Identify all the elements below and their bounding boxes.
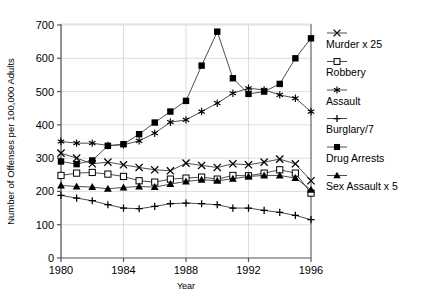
plus-marker-icon (73, 194, 80, 201)
data-point-marker (198, 108, 204, 115)
grid-lines (61, 25, 311, 258)
data-point-marker (167, 200, 174, 207)
data-point-marker (120, 141, 126, 147)
filled-square-icon (105, 143, 111, 149)
asterisk-marker-icon (198, 108, 204, 115)
filled-square-icon (89, 157, 95, 163)
plus-marker-icon (245, 204, 252, 211)
data-point-marker (292, 55, 298, 61)
legend-item-sex-assault-x-5[interactable]: Sex Assault x 5 (326, 172, 398, 192)
legend-item-assault[interactable]: Assault (326, 86, 361, 106)
data-point-marker (152, 129, 158, 136)
data-point-marker (198, 62, 204, 68)
data-point-marker (276, 156, 283, 163)
legend-item-drug-arrests[interactable]: Drug Arrests (326, 144, 384, 164)
filled-square-icon (152, 119, 158, 125)
filled-triangle-icon (333, 172, 340, 179)
data-point-marker (292, 160, 299, 167)
filled-square-icon (183, 98, 189, 104)
asterisk-marker-icon (214, 100, 220, 107)
open-square-icon (89, 169, 95, 175)
data-point-marker (334, 59, 340, 65)
data-point-marker (333, 172, 340, 179)
data-point-marker (73, 161, 79, 167)
data-point-marker (120, 204, 127, 211)
asterisk-marker-icon (308, 108, 314, 115)
filled-square-icon (261, 88, 267, 94)
plus-marker-icon (261, 207, 268, 214)
data-point-marker (277, 81, 283, 87)
x-tick-label: 1980 (49, 264, 73, 276)
data-point-marker (334, 115, 341, 122)
open-square-icon (58, 172, 64, 178)
data-point-marker (73, 194, 80, 201)
plus-marker-icon (229, 204, 236, 211)
data-point-marker (308, 35, 314, 41)
asterisk-marker-icon (230, 90, 236, 97)
data-point-marker (89, 169, 95, 175)
data-point-marker (167, 108, 173, 114)
plus-marker-icon (214, 201, 221, 208)
open-square-icon (120, 173, 126, 179)
plus-marker-icon (57, 192, 64, 199)
plus-marker-icon (182, 199, 189, 206)
plus-marker-icon (292, 212, 299, 219)
y-tick-label: 500 (36, 86, 54, 98)
data-point-marker (104, 201, 111, 208)
data-point-marker (58, 172, 64, 178)
data-point-marker (136, 205, 143, 212)
x-tick-label: 1988 (174, 264, 198, 276)
chart-figure: 0100200300400500600700198019841988199219… (0, 0, 425, 307)
data-point-marker (292, 212, 299, 219)
y-tick-label: 100 (36, 219, 54, 231)
y-tick-label: 200 (36, 185, 54, 197)
data-point-marker (229, 204, 236, 211)
data-point-marker (105, 143, 111, 149)
filled-square-icon (167, 108, 173, 114)
data-point-marker (261, 207, 268, 214)
legend: Murder x 25RobberyAssaultBurglary/7Drug … (326, 30, 398, 192)
filled-square-icon (292, 55, 298, 61)
filled-triangle-icon (57, 181, 65, 188)
legend-item-robbery[interactable]: Robbery (326, 59, 366, 78)
x-tick-label: 1992 (236, 264, 260, 276)
data-point-marker (198, 200, 205, 207)
legend-label: Murder x 25 (326, 38, 382, 50)
legend-label: Burglary/7 (326, 123, 374, 135)
filled-square-icon (120, 141, 126, 147)
data-point-marker (58, 158, 64, 164)
data-point-marker (136, 131, 142, 137)
x-axis-ticks: 19801984198819921996 (49, 258, 323, 276)
legend-item-burglary-7[interactable]: Burglary/7 (326, 115, 374, 135)
plus-marker-icon (276, 209, 283, 216)
plus-marker-icon (334, 115, 341, 122)
plus-marker-icon (120, 204, 127, 211)
data-point-marker (120, 173, 126, 179)
x-tick-label: 1984 (111, 264, 135, 276)
data-point-marker (183, 98, 189, 104)
y-tick-label: 700 (36, 19, 54, 31)
x-marker-icon (292, 160, 299, 167)
open-square-icon (105, 171, 111, 177)
data-point-marker (89, 197, 96, 204)
data-point-marker (230, 90, 236, 97)
filled-square-icon (214, 28, 220, 34)
data-point-marker (307, 216, 314, 223)
filled-square-icon (308, 35, 314, 41)
y-axis-title: Number of Offenses per 100,000 Adults (5, 58, 16, 225)
legend-label: Sex Assault x 5 (326, 180, 398, 192)
data-point-marker (261, 88, 267, 94)
filled-square-icon (245, 91, 251, 97)
asterisk-marker-icon (292, 95, 298, 102)
data-point-marker (292, 95, 298, 102)
legend-item-murder-x-25[interactable]: Murder x 25 (326, 30, 382, 50)
data-point-marker (136, 137, 142, 144)
data-point-marker (334, 144, 340, 150)
data-point-marker (308, 108, 314, 115)
data-point-marker (89, 157, 95, 163)
crime-trends-line-chart: 0100200300400500600700198019841988199219… (0, 0, 425, 307)
data-point-marker (230, 75, 236, 81)
plus-marker-icon (307, 216, 314, 223)
asterisk-marker-icon (277, 91, 283, 98)
y-axis-ticks: 0100200300400500600700 (36, 19, 61, 264)
